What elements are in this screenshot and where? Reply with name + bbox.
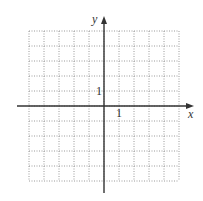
- y-unit-tick-label: 1: [96, 85, 102, 97]
- x-unit-tick-label: 1: [116, 107, 122, 119]
- y-axis-label: y: [92, 13, 97, 25]
- x-axis-label: x: [188, 108, 193, 120]
- y-axis-arrow-icon: [101, 16, 107, 24]
- coordinate-plane: [0, 0, 203, 201]
